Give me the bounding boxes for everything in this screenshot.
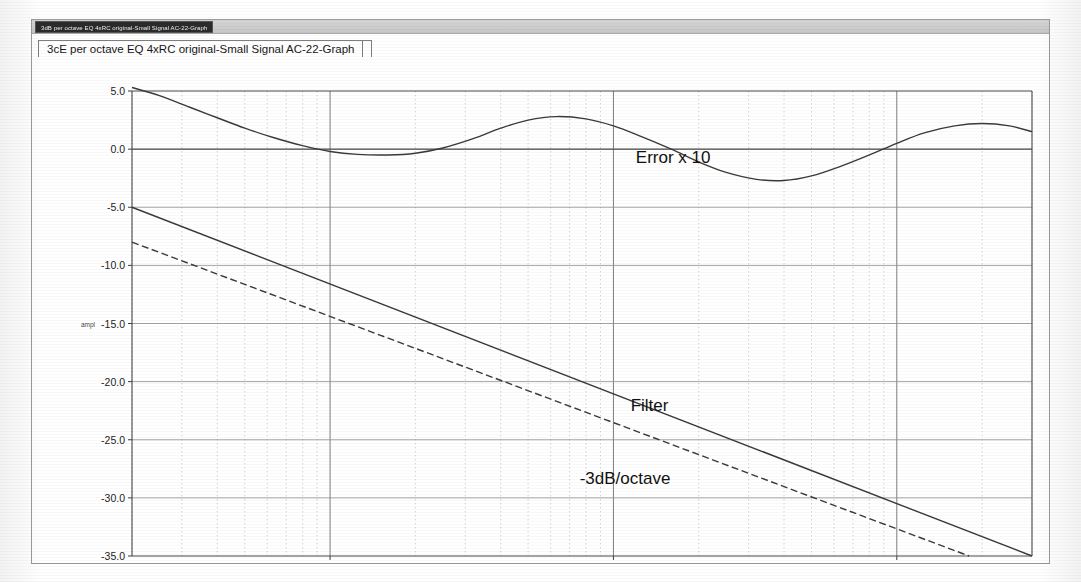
series-line-3	[132, 242, 969, 556]
y-tick-label: 5.0	[110, 85, 125, 97]
y-tick-label: -10.0	[101, 259, 125, 271]
window-title: 3dB per octave EQ 4xRC original-Small Si…	[35, 21, 213, 33]
y-tick-label: -35.0	[101, 550, 125, 562]
scanned-page: 3dB per octave EQ 4xRC original-Small Si…	[0, 0, 1081, 582]
graph-svg: 5.00.0-5.0-10.0-15.0-20.0-25.0-30.0-35.0…	[38, 58, 1043, 568]
tab-strip: 3cE per octave EQ 4xRC original-Small Si…	[38, 40, 372, 57]
y-tick-label: -5.0	[107, 201, 125, 213]
curve-annotation: Error x 10	[636, 148, 711, 167]
application-window: 3dB per octave EQ 4xRC original-Small Si…	[31, 19, 1050, 564]
y-axis-title: ampl	[81, 321, 96, 329]
y-tick-label: -15.0	[101, 318, 125, 330]
x-tick-label: 100	[321, 566, 339, 568]
tab-strip-filler	[363, 40, 372, 57]
window-client-area: 3cE per octave EQ 4xRC original-Small Si…	[32, 34, 1049, 563]
graph-plot-area[interactable]: 5.00.0-5.0-10.0-15.0-20.0-25.0-30.0-35.0…	[38, 58, 1043, 568]
y-tick-label: 0.0	[110, 143, 125, 155]
curve-annotation: -3dB/octave	[580, 469, 671, 488]
x-tick-label: 1k	[608, 566, 620, 568]
y-tick-label: -20.0	[101, 376, 125, 388]
x-tick-label: 10k	[888, 566, 906, 568]
y-tick-label: -30.0	[101, 492, 125, 504]
x-axis-tick-labels: 1001k10k	[321, 566, 906, 568]
window-title-bar[interactable]: 3dB per octave EQ 4xRC original-Small Si…	[32, 20, 1049, 34]
curve-annotation: Filter	[631, 396, 669, 415]
y-tick-label: -25.0	[101, 434, 125, 446]
tab-graph[interactable]: 3cE per octave EQ 4xRC original-Small Si…	[38, 40, 363, 57]
y-axis-tick-labels: 5.00.0-5.0-10.0-15.0-20.0-25.0-30.0-35.0	[101, 85, 125, 562]
curve-annotations: Error x 10Filter-3dB/octave	[580, 148, 711, 488]
